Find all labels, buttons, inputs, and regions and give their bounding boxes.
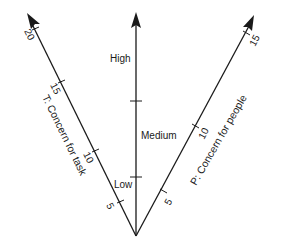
level-medium: Medium xyxy=(141,130,177,141)
right-tick-5 xyxy=(160,189,167,193)
right-axis-label: P: Concern for people xyxy=(187,92,249,187)
left-tick-label-5: 5 xyxy=(104,201,117,211)
level-low: Low xyxy=(114,179,133,190)
concern-diagram: High Medium Low 5 10 15 20 T: Concern fo… xyxy=(0,0,281,249)
left-axis: 5 10 15 20 T: Concern for task xyxy=(22,13,136,236)
right-tick-label-5: 5 xyxy=(162,196,175,206)
left-axis-label: T: Concern for task xyxy=(40,93,90,178)
right-arrow-icon xyxy=(243,15,254,31)
level-high: High xyxy=(110,53,131,64)
right-axis: 5 10 15 P: Concern for people xyxy=(136,15,262,236)
